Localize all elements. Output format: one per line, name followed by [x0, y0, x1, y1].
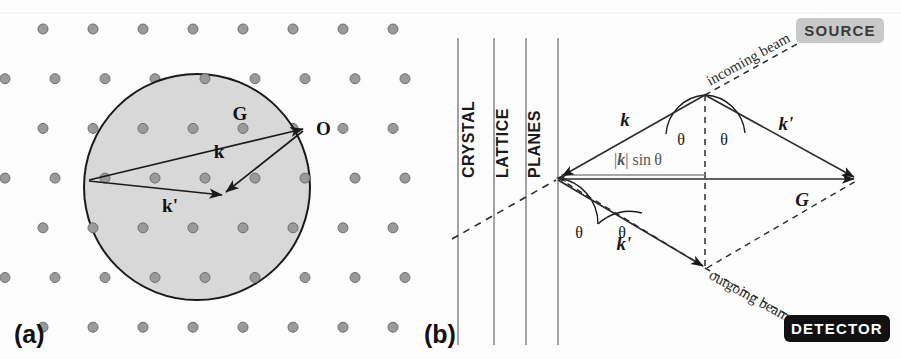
- lattice-dot: [200, 273, 210, 283]
- panel-b-label: (b): [424, 320, 456, 348]
- lattice-dot: [350, 74, 360, 84]
- k-sin-theta-label: |k| sin θ: [614, 151, 662, 169]
- lattice-dot: [388, 322, 398, 332]
- dashed-plane-trace: [452, 180, 556, 239]
- lattice-dot: [200, 74, 210, 84]
- lattice-dot: [250, 173, 260, 183]
- detector-badge-label: DETECTOR: [791, 320, 883, 337]
- lattice-dot: [150, 273, 160, 283]
- lattice-dot: [338, 123, 348, 133]
- lattice-dot: [38, 123, 48, 133]
- angle-theta-top-right: θ: [720, 131, 728, 148]
- lattice-dot: [0, 74, 10, 84]
- dashed-parallelogram-right: [707, 181, 856, 268]
- figure-container: G k k' O (a) CRYSTAL LATTICE PLANES: [0, 0, 901, 359]
- angle-theta-top-left: θ: [677, 131, 685, 148]
- lattice-dot: [138, 24, 148, 34]
- point-O-label: O: [316, 118, 331, 139]
- vector-k-prime-label: k': [162, 195, 178, 216]
- lattice-dot: [338, 223, 348, 233]
- lattice-dot: [300, 74, 310, 84]
- vector-k-label: k: [214, 141, 225, 162]
- lattice-dot: [50, 273, 60, 283]
- lattice-dot: [388, 24, 398, 34]
- lattice-dot: [188, 223, 198, 233]
- source-badge-label: SOURCE: [804, 22, 875, 39]
- lattice-dot: [200, 173, 210, 183]
- lattice-dot: [50, 74, 60, 84]
- lattice-dot: [50, 173, 60, 183]
- physics-diagram: G k k' O (a) CRYSTAL LATTICE PLANES: [0, 0, 901, 359]
- lattice-dot: [88, 24, 98, 34]
- panel-b: CRYSTAL LATTICE PLANES k: [424, 18, 890, 348]
- lattice-dot: [238, 123, 248, 133]
- vector-k-prime-upper-label: k': [779, 113, 794, 134]
- lattice-dot: [250, 273, 260, 283]
- lattice-dot: [0, 273, 10, 283]
- angle-theta-bottom-right: θ: [618, 224, 626, 241]
- lattice-dot: [388, 123, 398, 133]
- lattice-dot: [400, 173, 410, 183]
- lattice-dot: [288, 322, 298, 332]
- incoming-beam-label: incoming beam: [704, 29, 793, 88]
- lattice-dot: [288, 24, 298, 34]
- lattice-dot: [338, 24, 348, 34]
- lattice-plane-lines: [458, 38, 558, 345]
- vector-G-label: G: [233, 103, 248, 124]
- lattice-dot: [388, 223, 398, 233]
- lattice-dot: [350, 173, 360, 183]
- ewald-sphere-circle: [84, 74, 310, 300]
- lattice-dot: [100, 273, 110, 283]
- detector-badge: DETECTOR: [784, 315, 890, 342]
- lattice-dot: [400, 74, 410, 84]
- outgoing-beam-label: outgoing beam: [707, 267, 793, 325]
- lattice-dot: [0, 173, 10, 183]
- vector-G-horizontal-label: G: [795, 189, 809, 210]
- lattice-dot: [38, 223, 48, 233]
- panel-a: G k k' O (a): [0, 24, 410, 348]
- lattice-dot: [300, 173, 310, 183]
- lattice-dot: [288, 223, 298, 233]
- column-label-crystal: CRYSTAL: [460, 101, 477, 178]
- lattice-dot: [238, 322, 248, 332]
- lattice-dot: [38, 24, 48, 34]
- lattice-dot: [238, 223, 248, 233]
- panel-a-label: (a): [14, 320, 45, 348]
- lattice-dot: [88, 123, 98, 133]
- column-label-planes: PLANES: [526, 110, 543, 178]
- lattice-dot: [138, 322, 148, 332]
- lattice-dot: [400, 273, 410, 283]
- lattice-dot: [238, 24, 248, 34]
- column-label-lattice: LATTICE: [494, 108, 511, 178]
- lattice-dot: [188, 123, 198, 133]
- lattice-dot: [138, 123, 148, 133]
- lattice-dot: [188, 322, 198, 332]
- lattice-dot: [88, 223, 98, 233]
- vector-k-incoming-label: k: [620, 109, 630, 130]
- lattice-dot: [250, 74, 260, 84]
- source-badge: SOURCE: [796, 18, 884, 43]
- angle-theta-bottom-left: θ: [575, 224, 583, 241]
- lattice-dot: [150, 173, 160, 183]
- lattice-dot: [100, 74, 110, 84]
- lattice-dot: [300, 273, 310, 283]
- lattice-dot: [138, 223, 148, 233]
- lattice-dot: [338, 322, 348, 332]
- lattice-dot: [88, 322, 98, 332]
- lattice-dot: [188, 24, 198, 34]
- lattice-dot: [350, 273, 360, 283]
